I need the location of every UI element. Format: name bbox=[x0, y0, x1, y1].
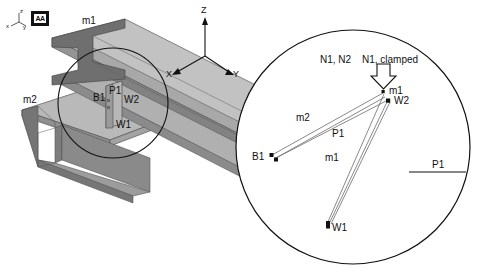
detail-label-w2: W2 bbox=[394, 96, 409, 106]
figure-canvas: z x y AA m1 m2 Z X Y B1 P1 W2 W1 bbox=[0, 0, 479, 276]
detail-label-n1-clamped: N1, clamped bbox=[362, 55, 418, 65]
node-marker-b1-a bbox=[270, 153, 274, 157]
detail-label-m2: m2 bbox=[296, 113, 310, 123]
node-marker-w1 bbox=[326, 221, 330, 229]
detail-label-w1: W1 bbox=[332, 223, 347, 233]
detail-view-layer bbox=[0, 0, 479, 276]
detail-view-circle bbox=[236, 30, 470, 264]
detail-legend-label-p1: P1 bbox=[432, 160, 444, 170]
detail-label-p1: P1 bbox=[332, 129, 344, 139]
node-marker-b1-b bbox=[274, 158, 278, 162]
node-marker-m1 bbox=[382, 90, 385, 93]
node-marker-w2 bbox=[386, 99, 390, 103]
detail-label-n1-n2: N1, N2 bbox=[320, 55, 351, 65]
detail-label-b1: B1 bbox=[252, 152, 264, 162]
detail-label-m1-lower: m1 bbox=[325, 153, 339, 163]
